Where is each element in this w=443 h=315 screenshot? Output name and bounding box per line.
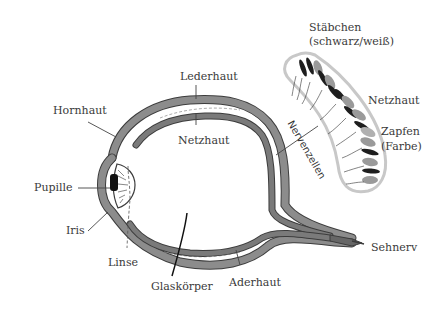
label-lederhaut: Lederhaut <box>180 70 238 83</box>
label-pupille: Pupille <box>34 181 73 194</box>
label-aderhaut: Aderhaut <box>229 276 281 289</box>
label-glaskoerper: Glaskörper <box>151 280 213 293</box>
label-hornhaut: Hornhaut <box>53 104 107 117</box>
label-zapfen-line1: Zapfen <box>381 125 420 138</box>
eye-anatomy-diagram: Nervenzellen Lederhaut Hornhaut Netzhaut… <box>0 0 443 315</box>
retina-detail <box>285 53 386 192</box>
label-zapfen-line2: (Farbe) <box>381 140 422 153</box>
label-staebchen-line1: Stäbchen <box>309 21 361 34</box>
pupil-shape <box>110 174 118 191</box>
label-netzhaut-eye: Netzhaut <box>178 134 230 147</box>
eyeball-outer-layer <box>102 100 353 266</box>
label-sehnerv: Sehnerv <box>371 241 417 254</box>
label-linse: Linse <box>108 256 138 269</box>
label-iris: Iris <box>66 224 85 237</box>
label-netzhaut-detail: Netzhaut <box>368 94 420 107</box>
label-staebchen-line2: (schwarz/weiß) <box>309 35 394 48</box>
